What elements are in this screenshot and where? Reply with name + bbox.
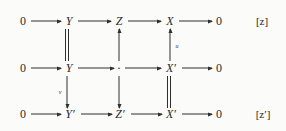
arrow-top-zero-to-y: [31, 21, 61, 22]
arrow-middle-y-to-dot: [78, 68, 114, 69]
arrow-top-y-to-z: [78, 21, 111, 22]
node-middle-zero-left: 0: [20, 62, 26, 74]
arrow-top-z-to-x: [128, 21, 161, 22]
arrow-middle-zero-to-y: [31, 68, 61, 69]
commutative-diagram-figure: 0 Y Z X 0 [z] u 0 Y · X′ 0 v 0 Y′ Z′ X′ …: [0, 0, 286, 131]
row-label-bottom: [z′]: [256, 108, 271, 120]
node-bottom-zero-left: 0: [20, 108, 26, 120]
arrow-bottom-zero-to-yprime: [31, 114, 61, 115]
vertical-arrow-dot-middle-to-bottom: [119, 76, 120, 108]
arrow-middle-dot-to-xprime: [125, 68, 161, 69]
arrow-middle-xprime-to-zero: [182, 68, 212, 69]
map-label-v: v: [59, 89, 62, 95]
arrow-bottom-zprime-to-xprime: [131, 114, 162, 115]
node-top-zero-left: 0: [20, 15, 26, 27]
vertical-equality-y-top-middle: [65, 29, 69, 61]
node-bottom-yprime: Y′: [65, 108, 74, 120]
node-bottom-zprime: Z′: [115, 108, 124, 120]
vertical-arrow-y-middle-to-bottom: [67, 76, 68, 108]
node-bottom-zero-right: 0: [216, 108, 222, 120]
node-middle-y: Y: [66, 62, 73, 74]
arrow-top-x-to-zero: [179, 21, 212, 22]
vertical-arrow-x-middle-to-top: [170, 29, 171, 61]
row-label-top: [z]: [256, 15, 268, 27]
vertical-equality-xprime-middle-bottom: [167, 76, 171, 108]
node-top-x: X: [166, 15, 173, 27]
vertical-arrow-z-middle-to-top: [119, 29, 120, 61]
node-middle-xprime: X′: [166, 62, 176, 74]
node-middle-zero-right: 0: [216, 62, 222, 74]
node-middle-dot: ·: [117, 62, 121, 74]
node-top-zero-right: 0: [216, 15, 222, 27]
node-top-y: Y: [66, 15, 73, 27]
arrow-bottom-yprime-to-zprime: [81, 114, 112, 115]
node-top-z: Z: [116, 15, 123, 27]
map-label-u: u: [176, 43, 179, 49]
arrow-bottom-xprime-to-zero: [182, 114, 212, 115]
node-bottom-xprime: X′: [166, 108, 176, 120]
